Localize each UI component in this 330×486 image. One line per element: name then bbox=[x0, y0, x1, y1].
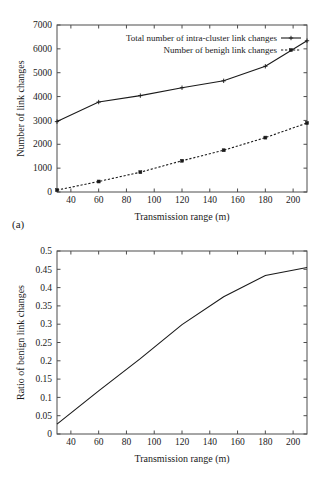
x-tick-label-a: 200 bbox=[286, 195, 301, 205]
x-tick-label-b: 140 bbox=[203, 437, 218, 447]
data-point-marker bbox=[222, 149, 225, 152]
y-tick-label-a: 5000 bbox=[33, 68, 52, 78]
data-point-marker bbox=[97, 180, 100, 183]
y-tick-label-a: 3000 bbox=[33, 116, 52, 126]
x-tick-label-b: 40 bbox=[66, 437, 76, 447]
y-tick-label-b: 0.15 bbox=[35, 374, 52, 384]
y-axis-label-a: Number of link changes bbox=[15, 60, 26, 156]
y-tick-label-b: 0.35 bbox=[35, 301, 52, 311]
series-line-b-0 bbox=[57, 267, 307, 424]
y-tick-label-b: 0.5 bbox=[40, 246, 52, 256]
y-tick-label-b: 0.4 bbox=[40, 283, 52, 293]
x-tick-label-b: 60 bbox=[94, 437, 104, 447]
data-point-marker bbox=[138, 93, 142, 97]
legend-marker-square bbox=[290, 49, 293, 52]
x-tick-label-a: 120 bbox=[175, 195, 190, 205]
data-point-marker bbox=[264, 136, 267, 139]
x-tick-label-a: 40 bbox=[66, 195, 76, 205]
x-tick-label-b: 160 bbox=[230, 437, 245, 447]
x-axis-label-a: Transmission range (m) bbox=[134, 211, 229, 223]
data-point-marker bbox=[221, 79, 225, 83]
chart-b-canvas: 40608010012014016018020000.050.10.150.20… bbox=[0, 243, 330, 486]
x-tick-label-b: 180 bbox=[258, 437, 273, 447]
y-tick-label-a: 7000 bbox=[33, 20, 52, 30]
chart-panel-b: 40608010012014016018020000.050.10.150.20… bbox=[0, 243, 330, 486]
x-tick-label-b: 200 bbox=[286, 437, 301, 447]
y-tick-label-b: 0.1 bbox=[40, 393, 52, 403]
series-line-a-1 bbox=[57, 123, 307, 190]
y-tick-label-a: 1000 bbox=[33, 163, 52, 173]
x-tick-label-b: 120 bbox=[175, 437, 190, 447]
data-point-marker bbox=[181, 159, 184, 162]
x-tick-label-a: 180 bbox=[258, 195, 273, 205]
x-tick-label-a: 80 bbox=[122, 195, 132, 205]
y-tick-label-a: 4000 bbox=[33, 92, 52, 102]
x-tick-label-b: 100 bbox=[147, 437, 162, 447]
y-tick-label-b: 0.05 bbox=[35, 411, 52, 421]
panel-a-tag: (a) bbox=[12, 218, 24, 230]
chart-panel-a: 4060801001201401601802000100020003000400… bbox=[0, 0, 330, 243]
data-point-marker bbox=[180, 86, 184, 90]
data-point-marker bbox=[56, 189, 59, 192]
y-tick-label-b: 0 bbox=[47, 429, 52, 439]
data-point-marker bbox=[306, 122, 309, 125]
y-tick-label-b: 0.2 bbox=[40, 356, 52, 366]
legend-label-1: Number of benigh link changes bbox=[164, 45, 278, 55]
y-axis-label-b: Ratio of benign link changes bbox=[15, 285, 26, 400]
x-axis-label-b: Transmission range (m) bbox=[134, 453, 229, 465]
y-tick-label-a: 6000 bbox=[33, 44, 52, 54]
x-tick-label-a: 160 bbox=[230, 195, 245, 205]
x-tick-label-a: 140 bbox=[203, 195, 218, 205]
figure-container: 4060801001201401601802000100020003000400… bbox=[0, 0, 330, 486]
legend-label-0: Total number of intra-cluster link chang… bbox=[126, 33, 278, 43]
y-tick-label-a: 2000 bbox=[33, 139, 52, 149]
y-tick-label-b: 0.45 bbox=[35, 265, 52, 275]
x-tick-label-a: 60 bbox=[94, 195, 104, 205]
data-point-marker bbox=[139, 171, 142, 174]
data-point-marker bbox=[96, 100, 100, 104]
y-tick-label-b: 0.3 bbox=[40, 319, 52, 329]
y-tick-label-a: 0 bbox=[47, 187, 52, 197]
y-tick-label-b: 0.25 bbox=[35, 338, 52, 348]
x-tick-label-b: 80 bbox=[122, 437, 132, 447]
plot-frame-b bbox=[57, 251, 307, 434]
chart-a-canvas: 4060801001201401601802000100020003000400… bbox=[0, 0, 330, 243]
x-tick-label-a: 100 bbox=[147, 195, 162, 205]
